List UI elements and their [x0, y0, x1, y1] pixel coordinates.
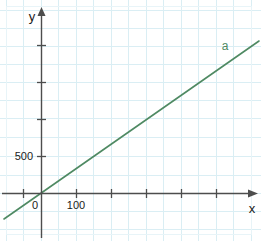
line-chart: 0 100 500 y x a [0, 0, 261, 241]
chart-background [0, 0, 261, 241]
x-axis-label: x [249, 201, 256, 216]
chart-container: 0 100 500 y x a [0, 0, 261, 241]
y-tick-label-500: 500 [15, 150, 33, 162]
y-axis-label: y [29, 9, 36, 24]
x-tick-label-0: 0 [32, 199, 38, 211]
x-tick-label-100: 100 [67, 199, 85, 211]
series-label-a: a [222, 39, 229, 53]
